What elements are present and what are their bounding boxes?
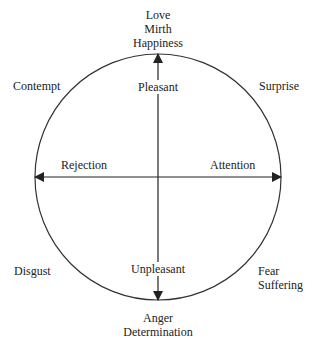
quadrant-label-contempt: Contempt: [13, 79, 60, 93]
quadrant-label-surprise: Surprise: [259, 79, 299, 93]
axis-label-rejection: Rejection: [61, 158, 107, 172]
top-pole-labels: Love Mirth Happiness: [133, 8, 183, 50]
pole-label-mirth: Mirth: [133, 22, 183, 36]
axis-label-pleasant: Pleasant: [136, 80, 180, 94]
axis-label-attention: Attention: [210, 158, 255, 172]
quadrant-label-fear: Fear: [258, 264, 303, 278]
quadrant-label-disgust: Disgust: [14, 264, 51, 278]
circumplex-diagram: [0, 0, 316, 349]
pole-label-love: Love: [133, 8, 183, 22]
pole-label-determination: Determination: [123, 325, 192, 339]
bottom-pole-labels: Anger Determination: [123, 311, 192, 339]
pole-label-anger: Anger: [123, 311, 192, 325]
quadrant-labels-lower-right: Fear Suffering: [258, 264, 303, 292]
pole-label-happiness: Happiness: [133, 36, 183, 50]
axis-label-unpleasant: Unpleasant: [129, 262, 187, 276]
quadrant-label-suffering: Suffering: [258, 278, 303, 292]
